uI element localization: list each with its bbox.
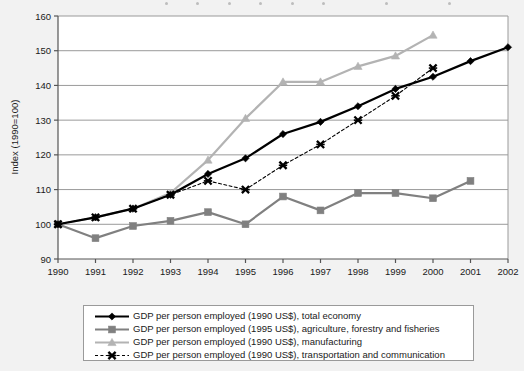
legend-item[interactable]: GDP per person employed (1990 US$), tota… — [91, 309, 473, 322]
chart-container: 90100110120130140150160 1990199119921993… — [0, 0, 524, 371]
x-tick-label: 2001 — [460, 266, 481, 277]
x-tick-labels: 1990199119921993199419951996199719981999… — [47, 266, 518, 277]
legend-marker-icon — [91, 348, 133, 361]
x-tick-label: 1997 — [310, 266, 331, 277]
y-tick-label: 100 — [35, 219, 51, 230]
y-tick-labels: 90100110120130140150160 — [35, 11, 51, 265]
legend-marker-icon — [91, 322, 133, 335]
legend-label: GDP per person employed (1990 US$), tota… — [133, 309, 361, 322]
y-tick-label: 110 — [36, 184, 51, 195]
chart-legend: GDP per person employed (1990 US$), tota… — [83, 305, 474, 361]
legend-item[interactable]: GDP per person employed (1990 US$), tran… — [91, 348, 473, 361]
y-tick-label: 120 — [35, 149, 51, 160]
y-tick-label: 160 — [35, 11, 51, 22]
legend-label: GDP per person employed (1990 US$), manu… — [133, 335, 362, 348]
legend-marker-icon — [91, 335, 133, 348]
y-axis-title: Index (1990=100) — [9, 100, 20, 175]
legend-label: GDP per person employed (1995 US$), agri… — [133, 322, 440, 335]
x-tick-label: 1994 — [197, 266, 218, 277]
x-tick-label: 1995 — [235, 266, 256, 277]
legend-item[interactable]: GDP per person employed (1995 US$), agri… — [91, 322, 473, 335]
y-tick-label: 150 — [35, 45, 51, 56]
x-tick-label: 1996 — [272, 266, 293, 277]
x-tick-label: 1991 — [85, 266, 106, 277]
legend-marker-icon — [91, 309, 133, 322]
x-tick-label: 1999 — [385, 266, 406, 277]
y-tick-label: 130 — [35, 115, 51, 126]
x-tick-label: 2002 — [497, 266, 518, 277]
y-tick-label: 90 — [40, 254, 51, 265]
y-tick-label: 140 — [35, 80, 51, 91]
x-tick-label: 2000 — [422, 266, 443, 277]
legend-item[interactable]: GDP per person employed (1990 US$), manu… — [91, 335, 473, 348]
x-tick-label: 1992 — [122, 266, 143, 277]
x-tick-label: 1990 — [47, 266, 68, 277]
x-tick-label: 1993 — [160, 266, 181, 277]
legend-label: GDP per person employed (1990 US$), tran… — [133, 348, 445, 361]
x-tick-label: 1998 — [347, 266, 368, 277]
